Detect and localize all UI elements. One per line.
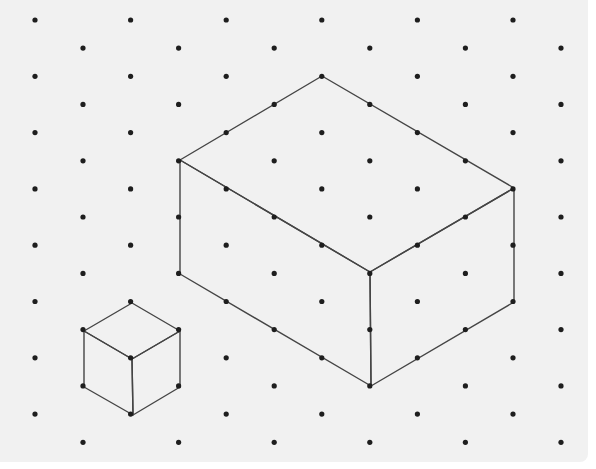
- grid-dot: [32, 130, 37, 135]
- grid-dot: [176, 271, 181, 276]
- grid-dot: [510, 243, 515, 248]
- grid-dot: [558, 327, 563, 332]
- grid-dot: [128, 186, 133, 191]
- grid-dot: [463, 271, 468, 276]
- grid-dot: [558, 271, 563, 276]
- grid-dot: [176, 383, 181, 388]
- grid-dot: [415, 130, 420, 135]
- grid-dot: [367, 158, 372, 163]
- grid-dot: [367, 102, 372, 107]
- grid-dot: [128, 355, 133, 360]
- grid-dot: [510, 74, 515, 79]
- grid-dot: [415, 17, 420, 22]
- grid-dot: [558, 214, 563, 219]
- grid-dot: [367, 383, 372, 388]
- grid-dot: [319, 17, 324, 22]
- grid-dot: [510, 299, 515, 304]
- grid-dot: [367, 214, 372, 219]
- grid-dot: [319, 299, 324, 304]
- grid-dot: [128, 17, 133, 22]
- grid-dot: [510, 355, 515, 360]
- isometric-diagram: [0, 0, 596, 469]
- grid-dot: [80, 271, 85, 276]
- grid-dot: [319, 74, 324, 79]
- small-cube-top-face: [84, 303, 180, 359]
- grid-dot: [224, 17, 229, 22]
- grid-dot: [319, 412, 324, 417]
- small-cube-left-face: [84, 331, 133, 415]
- grid-dot: [272, 383, 277, 388]
- grid-dot: [80, 102, 85, 107]
- grid-dot: [176, 46, 181, 51]
- grid-dot: [367, 327, 372, 332]
- grid-dot: [176, 327, 181, 332]
- grid-dot: [32, 186, 37, 191]
- grid-dot: [510, 17, 515, 22]
- dot-grid: [32, 17, 563, 445]
- grid-dot: [272, 46, 277, 51]
- grid-dot: [272, 214, 277, 219]
- grid-dot: [128, 243, 133, 248]
- grid-dot: [463, 102, 468, 107]
- grid-dot: [367, 440, 372, 445]
- grid-dot: [319, 355, 324, 360]
- grid-dot: [510, 186, 515, 191]
- grid-dot: [224, 299, 229, 304]
- grid-dot: [463, 46, 468, 51]
- grid-dot: [415, 355, 420, 360]
- grid-dot: [80, 383, 85, 388]
- grid-dot: [367, 46, 372, 51]
- grid-dot: [32, 243, 37, 248]
- grid-dot: [558, 383, 563, 388]
- grid-dot: [319, 130, 324, 135]
- grid-dot: [224, 74, 229, 79]
- grid-dot: [319, 186, 324, 191]
- grid-dot: [176, 440, 181, 445]
- grid-dot: [463, 383, 468, 388]
- grid-dot: [319, 243, 324, 248]
- grid-dot: [463, 327, 468, 332]
- grid-dot: [80, 327, 85, 332]
- grid-dot: [32, 355, 37, 360]
- grid-dot: [367, 271, 372, 276]
- grid-dot: [32, 299, 37, 304]
- small-cube-right-face: [132, 331, 180, 415]
- grid-dot: [415, 186, 420, 191]
- large-cuboid: [180, 76, 514, 386]
- grid-dot: [128, 412, 133, 417]
- grid-dot: [32, 412, 37, 417]
- grid-dot: [510, 412, 515, 417]
- grid-dot: [128, 130, 133, 135]
- grid-dot: [558, 102, 563, 107]
- grid-dot: [32, 17, 37, 22]
- grid-dot: [415, 299, 420, 304]
- grid-dot: [415, 412, 420, 417]
- grid-dot: [224, 243, 229, 248]
- grid-dot: [80, 214, 85, 219]
- grid-dot: [32, 74, 37, 79]
- grid-dot: [463, 440, 468, 445]
- grid-dot: [128, 74, 133, 79]
- grid-dot: [463, 158, 468, 163]
- grid-dot: [463, 214, 468, 219]
- grid-dot: [415, 74, 420, 79]
- grid-dot: [224, 130, 229, 135]
- grid-dot: [272, 158, 277, 163]
- grid-dot: [415, 243, 420, 248]
- grid-dot: [224, 186, 229, 191]
- grid-dot: [558, 440, 563, 445]
- grid-dot: [510, 130, 515, 135]
- grid-dot: [272, 327, 277, 332]
- grid-dot: [558, 158, 563, 163]
- grid-dot: [558, 46, 563, 51]
- shapes-layer: [84, 76, 514, 415]
- grid-dot: [80, 440, 85, 445]
- grid-dot: [272, 271, 277, 276]
- grid-dot: [224, 412, 229, 417]
- grid-dot: [176, 214, 181, 219]
- large-cuboid-right-face: [370, 188, 514, 386]
- grid-dot: [176, 102, 181, 107]
- grid-dot: [128, 299, 133, 304]
- grid-dot: [80, 158, 85, 163]
- grid-dot: [224, 355, 229, 360]
